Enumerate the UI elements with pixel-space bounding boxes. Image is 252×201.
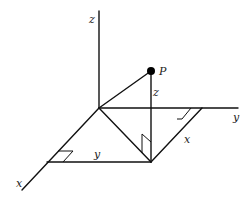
x-distance-label: x xyxy=(184,133,191,146)
height-z-label: z xyxy=(152,86,159,99)
position-line-op xyxy=(99,71,151,108)
y-distance-label: y xyxy=(93,148,101,161)
right-angle-mark-y-corner xyxy=(177,108,191,119)
x-axis xyxy=(22,108,99,190)
coordinate-diagram: z y x P z y x xyxy=(0,0,252,201)
y-axis-label: y xyxy=(232,111,240,124)
z-axis-label: z xyxy=(88,13,95,26)
x-axis-label: x xyxy=(16,177,23,190)
right-angle-mark-q xyxy=(142,134,151,153)
point-p-label: P xyxy=(158,65,167,78)
point-p-marker xyxy=(147,67,155,75)
right-angle-mark-x-corner xyxy=(58,151,73,162)
x-distance-line xyxy=(151,108,202,162)
